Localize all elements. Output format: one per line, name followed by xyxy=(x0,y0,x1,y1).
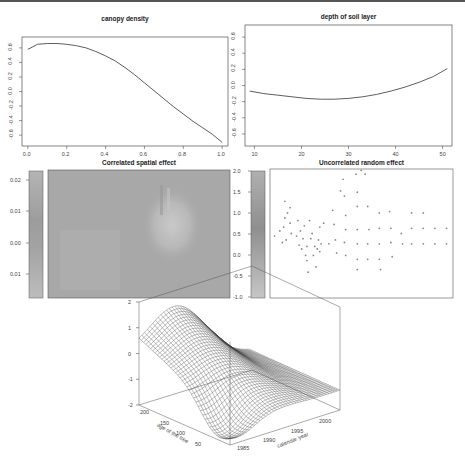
plot-frame-soil xyxy=(245,25,452,146)
heatmap-bright-region xyxy=(142,187,202,263)
random-effect-points xyxy=(274,169,448,273)
canopy-curve xyxy=(28,44,222,143)
plot-frame-canopy xyxy=(22,37,228,146)
soil-curve xyxy=(250,69,448,100)
figure-canvas xyxy=(0,0,465,461)
colorbar-random xyxy=(251,171,265,298)
colorbar-spatial xyxy=(29,171,43,298)
scatter-frame-random xyxy=(270,169,453,298)
